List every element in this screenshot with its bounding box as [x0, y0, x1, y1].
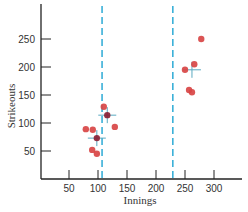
data-point	[94, 151, 100, 157]
data-point	[112, 124, 118, 130]
x-tick-label: 200	[148, 183, 165, 194]
y-ticks: 50100150200250	[18, 34, 51, 157]
x-tick-label: 100	[90, 183, 107, 194]
x-tick-label: 250	[177, 183, 194, 194]
data-point	[94, 135, 100, 141]
cluster-dividers	[102, 6, 173, 179]
x-tick-label: 50	[63, 183, 75, 194]
x-axis-title: Innings	[124, 194, 157, 206]
data-point	[101, 104, 107, 110]
axes	[41, 4, 242, 179]
y-tick-label: 200	[18, 62, 35, 73]
x-tick-label: 300	[206, 183, 223, 194]
data-point	[198, 36, 204, 42]
data-point	[90, 127, 96, 133]
x-ticks: 50100150200250300	[63, 170, 222, 194]
y-tick-label: 150	[18, 90, 35, 101]
data-point	[189, 89, 195, 95]
y-tick-label: 250	[18, 34, 35, 45]
x-tick-label: 150	[119, 183, 136, 194]
scatter-chart: 50100150200250300 50100150200250 Innings…	[0, 0, 248, 212]
y-axis-title: Strikeouts	[5, 84, 17, 129]
data-point	[191, 61, 197, 67]
data-point	[83, 126, 89, 132]
y-tick-label: 100	[18, 118, 35, 129]
data-points	[83, 36, 205, 157]
data-point	[182, 67, 188, 73]
y-tick-label: 50	[24, 146, 36, 157]
data-point	[104, 112, 110, 118]
